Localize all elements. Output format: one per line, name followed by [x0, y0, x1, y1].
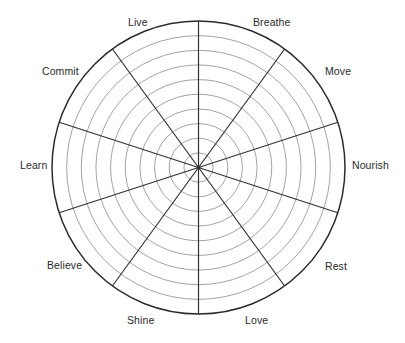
segment-label-shine: Shine [127, 315, 154, 326]
wheel-graphic [0, 0, 405, 343]
segment-label-nourish: Nourish [352, 160, 389, 171]
spoke [112, 168, 198, 287]
wheel-diagram: Breathe Move Nourish Rest Love Shine Bel… [0, 0, 405, 343]
spoke [199, 168, 285, 287]
segment-label-believe: Believe [47, 260, 82, 271]
center-hub [197, 166, 201, 170]
segment-label-learn: Learn [20, 160, 47, 171]
segment-label-live: Live [128, 17, 148, 28]
spoke [112, 49, 198, 168]
spoke [199, 49, 285, 168]
segment-label-breathe: Breathe [253, 17, 290, 28]
segment-label-rest: Rest [325, 261, 347, 272]
segment-label-commit: Commit [42, 66, 79, 77]
segment-label-move: Move [325, 66, 351, 77]
segment-label-love: Love [245, 315, 268, 326]
